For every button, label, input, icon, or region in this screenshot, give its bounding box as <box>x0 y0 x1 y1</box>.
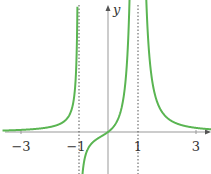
x-axis-arrow-icon <box>205 130 211 135</box>
tick-label-m1: −1 <box>66 139 85 154</box>
y-axis-arrow-icon <box>106 5 111 11</box>
chart-svg: −3 −1 1 3 y <box>0 0 211 174</box>
y-axis-label: y <box>112 2 121 17</box>
tick-label-m3: −3 <box>11 139 30 154</box>
tick-label-1: 1 <box>134 139 142 154</box>
function-curve <box>3 0 211 174</box>
chart: −3 −1 1 3 y <box>0 0 211 174</box>
tick-label-3: 3 <box>192 139 200 154</box>
